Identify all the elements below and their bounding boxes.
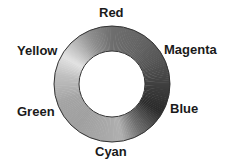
label-cyan: Cyan bbox=[95, 145, 127, 158]
label-green: Green bbox=[17, 105, 55, 118]
label-red: Red bbox=[99, 6, 124, 19]
label-blue: Blue bbox=[170, 102, 198, 115]
label-magenta: Magenta bbox=[164, 43, 217, 56]
label-yellow: Yellow bbox=[17, 44, 57, 57]
color-wheel-ring bbox=[0, 0, 232, 166]
